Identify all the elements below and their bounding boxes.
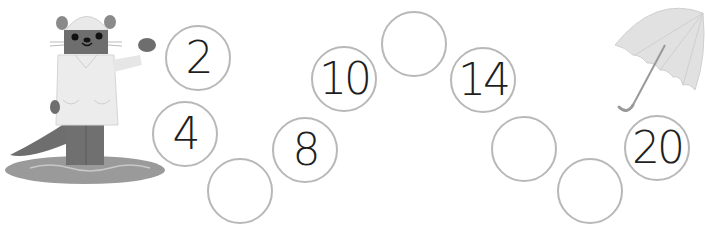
number-value: 8 bbox=[293, 128, 318, 172]
umbrella-icon bbox=[605, 5, 705, 125]
counting-by-twos-puzzle: 2 4 8 10 14 20 bbox=[0, 0, 705, 230]
number-circle-10: 20 bbox=[624, 115, 690, 181]
blank-answer-circle-6[interactable] bbox=[381, 11, 447, 77]
number-circle-7: 14 bbox=[450, 47, 516, 113]
number-value: 20 bbox=[632, 126, 682, 170]
number-circle-5: 10 bbox=[311, 46, 377, 112]
number-value: 4 bbox=[173, 112, 198, 156]
otter-in-raincoat-icon bbox=[0, 0, 170, 185]
blank-answer-circle-8[interactable] bbox=[491, 116, 557, 182]
number-circle-4: 8 bbox=[272, 117, 338, 183]
number-value: 10 bbox=[319, 57, 369, 101]
blank-answer-circle-3[interactable] bbox=[207, 158, 273, 224]
blank-answer-circle-9[interactable] bbox=[557, 158, 623, 224]
number-circle-1: 2 bbox=[165, 25, 231, 91]
number-value: 14 bbox=[458, 58, 508, 102]
number-value: 2 bbox=[186, 36, 211, 80]
number-circle-2: 4 bbox=[152, 101, 218, 167]
